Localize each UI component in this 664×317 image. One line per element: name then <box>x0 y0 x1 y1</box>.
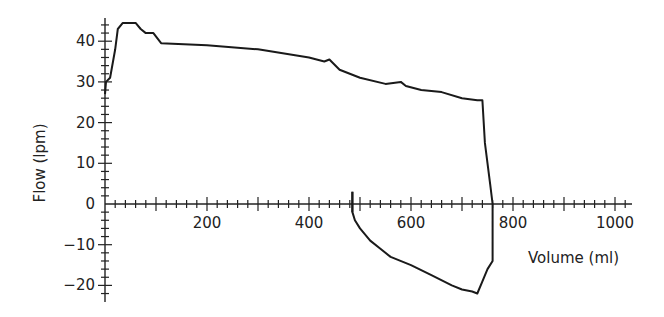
x-tick-label: 600 <box>397 214 426 232</box>
x-tick-label: 800 <box>499 214 528 232</box>
y-axis-title: Flow (lpm) <box>31 123 49 202</box>
y-tick-label: 30 <box>76 73 95 91</box>
y-tick-label: 0 <box>85 195 95 213</box>
expiration-curve <box>352 192 492 294</box>
y-tick-label: 20 <box>76 114 95 132</box>
flow-volume-loop <box>105 23 493 294</box>
y-tick-label: −10 <box>63 236 95 254</box>
y-tick-label: −20 <box>63 276 95 294</box>
x-tick-label: 1000 <box>596 214 634 232</box>
flow-volume-chart: 2004006008001000 403020100−10−20 Volume … <box>0 0 664 317</box>
x-axis-title: Volume (ml) <box>528 249 619 267</box>
x-tick-labels: 2004006008001000 <box>193 214 634 232</box>
y-tick-label: 40 <box>76 32 95 50</box>
x-tick-label: 200 <box>193 214 222 232</box>
x-tick-label: 400 <box>295 214 324 232</box>
y-tick-labels: 403020100−10−20 <box>63 32 95 294</box>
y-tick-label: 10 <box>76 154 95 172</box>
inspiration-curve <box>105 23 493 204</box>
